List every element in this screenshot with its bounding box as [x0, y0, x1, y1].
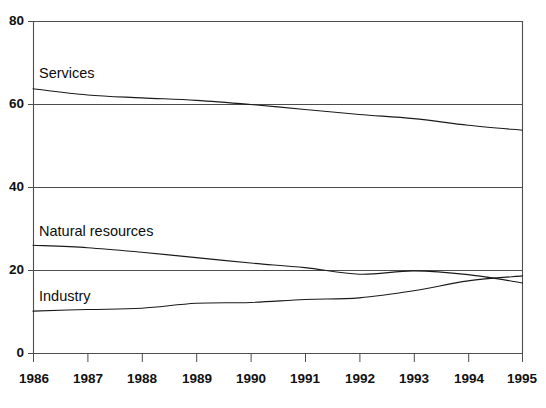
x-axis-label-1987: 1987: [62, 372, 114, 386]
x-axis-label-1994: 1994: [443, 372, 495, 386]
series-line-services: [33, 89, 523, 130]
series-label-services: Services: [39, 66, 95, 81]
y-axis-label-0: 0: [2, 346, 24, 360]
series-label-natural-resources: Natural resources: [39, 224, 153, 239]
line-chart: 80 60 40 20 0 1986 1987 1988 1989 1990 1…: [0, 0, 546, 408]
x-axis-label-1986: 1986: [8, 372, 60, 386]
y-axis-label-60: 60: [2, 97, 24, 111]
x-axis-label-1989: 1989: [171, 372, 223, 386]
y-axis-label-40: 40: [2, 180, 24, 194]
series-line-natural-resources: [33, 245, 523, 283]
x-axis-label-1988: 1988: [116, 372, 168, 386]
y-axis-label-80: 80: [2, 14, 24, 28]
x-axis-label-1995: 1995: [496, 372, 546, 386]
x-axis-label-1991: 1991: [279, 372, 331, 386]
y-axis-label-20: 20: [2, 263, 24, 277]
x-axis-label-1990: 1990: [225, 372, 277, 386]
series-line-industry: [33, 276, 523, 311]
chart-plot-area: [0, 0, 546, 408]
x-axis-label-1992: 1992: [334, 372, 386, 386]
data-series-group: [33, 89, 523, 311]
x-axis-label-1993: 1993: [388, 372, 440, 386]
series-label-industry: Industry: [39, 289, 91, 304]
y-tick-marks: [28, 22, 34, 354]
x-tick-marks: [34, 354, 523, 363]
